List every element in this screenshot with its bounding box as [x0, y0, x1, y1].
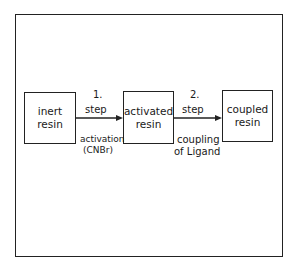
edge1-desc-line1: activation: [80, 134, 125, 145]
node-label-line1: inert: [38, 105, 62, 118]
node-label-line1: activated: [124, 105, 173, 118]
edge2-step: step: [182, 104, 204, 116]
node-coupled-resin: coupled resin: [222, 90, 273, 142]
edge2-desc-line1: coupling: [177, 134, 220, 146]
node-label-line2: resin: [235, 116, 261, 129]
node-label-line2: resin: [136, 118, 162, 131]
edge1-number: 1.: [93, 89, 103, 101]
node-activated-resin: activated resin: [123, 91, 174, 144]
node-label-line1: coupled: [227, 103, 269, 116]
node-inert-resin: inert resin: [24, 92, 76, 144]
edge1-desc-line2: (CNBr): [83, 145, 113, 156]
edge2-number: 2.: [190, 89, 200, 101]
edge2-desc-line2: of Ligand: [174, 146, 220, 158]
node-label-line2: resin: [37, 118, 63, 131]
edge1-step: step: [85, 104, 107, 116]
